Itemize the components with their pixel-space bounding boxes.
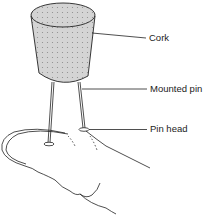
diagram-drawing — [0, 0, 216, 220]
cork-leader-line — [92, 33, 146, 38]
mounted-pin-left — [48, 82, 54, 143]
pin-head-right — [79, 128, 89, 132]
cork — [31, 3, 95, 82]
label-pin-head: Pin head — [150, 123, 188, 134]
pin-head-left — [44, 142, 54, 146]
finger — [2, 129, 150, 214]
label-cork: Cork — [149, 32, 169, 43]
label-mounted-pin: Mounted pin — [150, 83, 202, 94]
cork-pins-diagram: Cork Mounted pin Pin head — [0, 0, 216, 220]
